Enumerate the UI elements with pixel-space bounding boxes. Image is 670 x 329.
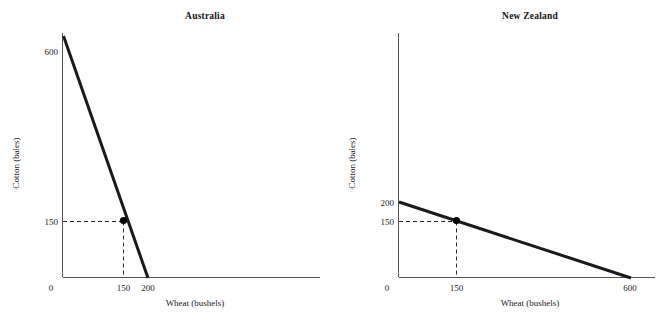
australia-ppf-line [64, 36, 149, 278]
figure-container: Australia 600 150 0 150 200 Wheat (bushe… [0, 0, 670, 329]
australia-production-point [120, 217, 127, 224]
australia-x-axis-title: Wheat (bushels) [166, 298, 225, 308]
new-zealand-x-axis-title: Wheat (bushels) [501, 298, 560, 308]
new-zealand-chart-title: New Zealand [502, 11, 558, 21]
australia-chart-svg: Australia 600 150 0 150 200 Wheat (bushe… [0, 0, 335, 329]
australia-x-tick-0: 0 [49, 283, 54, 293]
new-zealand-y-tick-150: 150 [381, 217, 395, 227]
chart-panel-australia: Australia 600 150 0 150 200 Wheat (bushe… [0, 0, 335, 329]
chart-panel-new-zealand: New Zealand 200 150 0 150 600 Wheat (bus… [335, 0, 670, 329]
australia-y-tick-150: 150 [45, 217, 59, 227]
australia-x-tick-200: 200 [141, 283, 155, 293]
new-zealand-chart-svg: New Zealand 200 150 0 150 600 Wheat (bus… [335, 0, 670, 329]
new-zealand-x-tick-150: 150 [450, 283, 464, 293]
new-zealand-y-tick-200: 200 [381, 198, 395, 208]
australia-chart-title: Australia [185, 11, 225, 21]
new-zealand-x-tick-600: 600 [623, 283, 637, 293]
new-zealand-production-point [453, 217, 460, 224]
australia-y-tick-600: 600 [45, 47, 59, 57]
australia-x-tick-150: 150 [117, 283, 131, 293]
new-zealand-ppf-line [399, 202, 631, 278]
new-zealand-y-axis-title: Cotton (bales) [347, 137, 357, 188]
australia-y-axis-title: Cotton (bales) [11, 137, 21, 188]
new-zealand-x-tick-0: 0 [385, 283, 390, 293]
